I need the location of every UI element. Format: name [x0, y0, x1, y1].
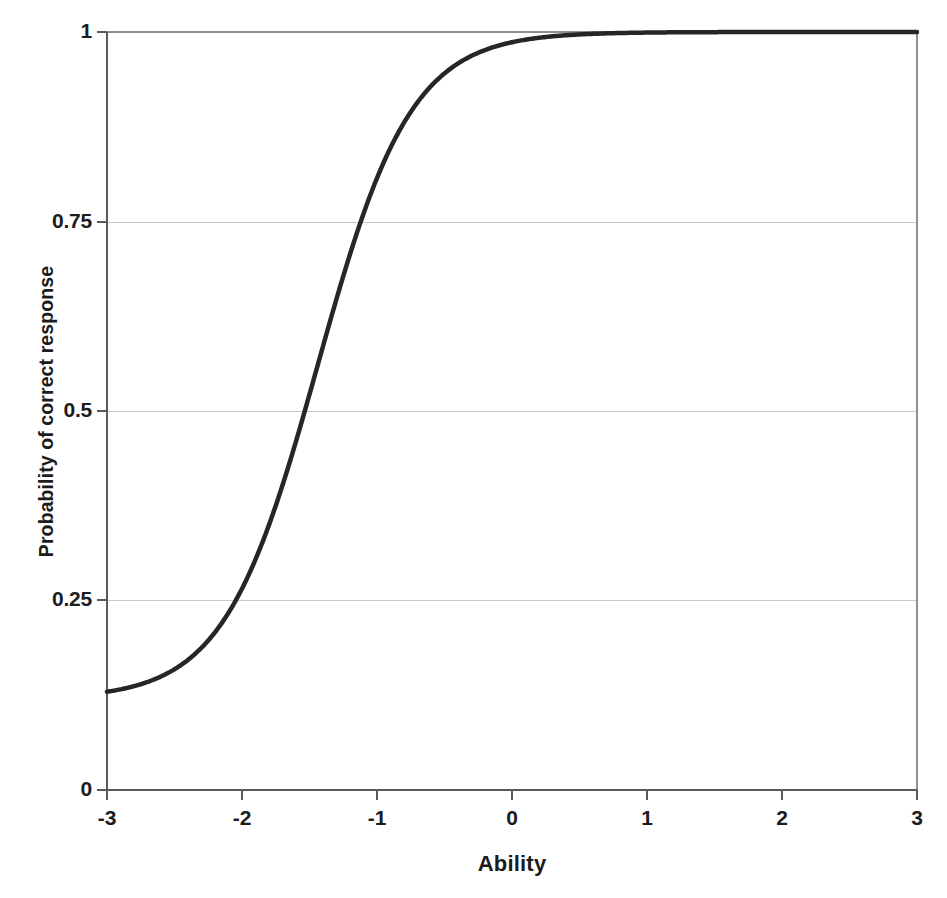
y-tick-mark-0.75 — [97, 221, 107, 223]
y-tick-mark-0.5 — [97, 410, 107, 412]
item-characteristic-curve-line — [107, 32, 917, 692]
x-tick-mark-2 — [781, 791, 783, 800]
x-tick-label-1: 1 — [617, 806, 677, 830]
x-tick-label-3: 3 — [887, 806, 947, 830]
gridline-0.75 — [107, 222, 917, 223]
x-tick-mark--1 — [376, 791, 378, 800]
x-tick-label--2: -2 — [212, 806, 272, 830]
x-tick-mark--2 — [241, 791, 243, 800]
x-tick-label-2: 2 — [752, 806, 812, 830]
x-tick-mark-1 — [646, 791, 648, 800]
y-tick-mark-1 — [97, 31, 107, 33]
item-characteristic-curve-chart: 1 0.75 0.5 0.25 0 -3 -2 -1 0 1 2 3 Proba… — [0, 0, 947, 898]
y-tick-label-0: 0 — [6, 777, 92, 801]
y-tick-label-1: 1 — [6, 19, 92, 43]
gridline-0.25 — [107, 600, 917, 601]
x-tick-mark-0 — [511, 791, 513, 800]
x-tick-label-0: 0 — [482, 806, 542, 830]
x-tick-label--1: -1 — [347, 806, 407, 830]
gridline-0.5 — [107, 411, 917, 412]
x-tick-mark-3 — [916, 791, 918, 800]
x-axis-title: Ability — [107, 851, 917, 877]
x-tick-label--3: -3 — [77, 806, 137, 830]
curve-canvas — [0, 0, 947, 898]
y-tick-mark-0.25 — [97, 599, 107, 601]
x-tick-mark--3 — [106, 791, 108, 800]
plot-frame-right — [916, 32, 918, 791]
plot-frame-top — [106, 31, 918, 33]
y-axis-title: Probability of correct response — [35, 152, 58, 672]
